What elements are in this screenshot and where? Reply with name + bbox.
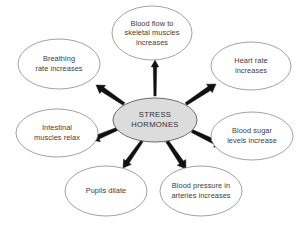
- arrow-to-breathing: [96, 85, 125, 105]
- node-ellipse-breathing-rate[interactable]: [18, 39, 100, 89]
- center-node-layer: [113, 98, 197, 142]
- node-ellipse-blood-flow-skeletal-muscles[interactable]: [112, 6, 192, 60]
- center-node-ellipse[interactable]: [113, 98, 197, 142]
- diagram-svg: [0, 0, 308, 226]
- node-ellipse-pupils-dilate[interactable]: [65, 166, 147, 216]
- arrow-to-heart-rate: [185, 84, 216, 105]
- node-ellipse-blood-sugar-levels[interactable]: [211, 112, 293, 160]
- diagram-canvas: Blood flow to skeletal muscles increases…: [0, 0, 308, 226]
- arrow-to-blood-flow: [151, 60, 159, 96]
- node-ellipse-intestinal-muscles[interactable]: [16, 109, 98, 157]
- node-ellipse-heart-rate[interactable]: [211, 42, 291, 90]
- arrow-to-blood-pressure: [166, 140, 186, 169]
- node-ellipse-blood-pressure-arteries[interactable]: [160, 166, 242, 216]
- arrow-to-pupils: [123, 140, 143, 168]
